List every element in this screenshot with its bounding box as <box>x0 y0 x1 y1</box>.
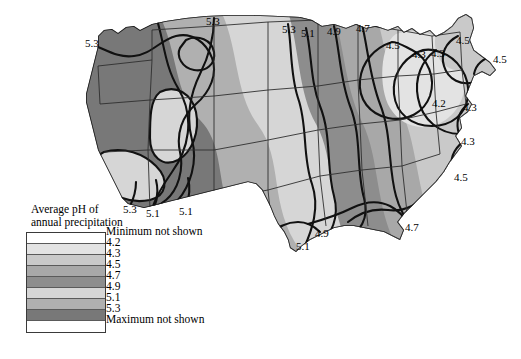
contour-label: 5.1 <box>296 241 310 252</box>
contour-label: 4.9 <box>327 26 341 37</box>
contour-label: 5.3 <box>282 24 296 35</box>
contour-label: 4.5 <box>454 172 468 183</box>
contour-label: 4.5 <box>456 35 470 46</box>
legend-label-max: Maximum not shown <box>106 314 256 325</box>
legend-swatch-5-1 <box>27 299 105 310</box>
legend-swatch-4-3 <box>27 255 105 266</box>
legend-swatch-column <box>26 232 106 333</box>
legend-label-4-9: 4.9 <box>106 281 256 292</box>
contour-label: 4.3 <box>461 136 475 147</box>
legend-label-5-1: 5.1 <box>106 292 256 303</box>
legend-label-4-5: 4.5 <box>106 259 256 270</box>
legend-body: Minimum not shown 4.2 4.3 4.5 4.7 4.9 5.… <box>26 232 256 333</box>
legend-swatch-4-2 <box>27 244 105 255</box>
contour-label: 4.3 <box>431 48 445 59</box>
legend-swatch-4-5 <box>27 266 105 277</box>
legend-swatch-4-7 <box>27 277 105 288</box>
contour-label: 5.3 <box>206 16 220 27</box>
contour-label: 4.5 <box>493 54 507 65</box>
contour-label: 4.7 <box>356 23 370 34</box>
contour-label: 5.1 <box>301 28 315 39</box>
precipitation-ph-figure: 5.3 5.3 5.3 5.1 4.9 4.7 4.5 4.3 4.3 4.5 … <box>0 0 521 359</box>
legend-label-column: Minimum not shown 4.2 4.3 4.5 4.7 4.9 5.… <box>106 232 256 331</box>
contour-label: 4.7 <box>405 222 419 233</box>
legend-swatch-5-3 <box>27 310 105 321</box>
legend-swatch-4-9 <box>27 288 105 299</box>
legend-title-line-1: Average pH of <box>31 203 256 216</box>
contour-label: 5.3 <box>85 38 99 49</box>
contour-label: 4.2 <box>432 98 446 109</box>
contour-label: 4.3 <box>463 102 477 113</box>
map-legend: Average pH of annual precipitation Minim… <box>26 203 256 333</box>
legend-label-4-2: 4.2 <box>106 237 256 248</box>
legend-swatch-max <box>27 321 105 332</box>
contour-label: 4.9 <box>315 228 329 239</box>
legend-label-4-7: 4.7 <box>106 270 256 281</box>
legend-swatch-min <box>27 233 105 244</box>
contour-label: 4.5 <box>386 40 400 51</box>
legend-label-4-3: 4.3 <box>106 248 256 259</box>
contour-label: 4.3 <box>412 49 426 60</box>
legend-label-min: Minimum not shown <box>106 226 256 237</box>
